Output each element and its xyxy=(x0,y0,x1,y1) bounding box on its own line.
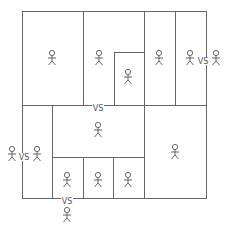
cell-bottom-center-cell-1 xyxy=(53,158,84,199)
svg-text:VS: VS xyxy=(19,153,30,162)
person-icon xyxy=(155,50,163,65)
person-icon xyxy=(48,50,56,65)
vs-left-label: VS xyxy=(18,153,30,162)
person-icon xyxy=(63,207,71,222)
cell-top-middle-inner xyxy=(115,53,145,106)
person-icon xyxy=(33,146,41,161)
person-icon xyxy=(8,146,16,161)
vs-bottom-label: VS xyxy=(61,197,73,206)
person-icon xyxy=(94,122,102,137)
cell-top-right-a xyxy=(145,12,176,106)
cell-bottom-center-cell-3 xyxy=(114,158,145,199)
person-icon xyxy=(186,50,194,65)
person-icon xyxy=(124,69,132,84)
diagram-canvas: VSVSVSVS xyxy=(0,0,226,229)
person-icon xyxy=(63,172,71,187)
person-icon xyxy=(212,50,220,65)
person-icon xyxy=(95,50,103,65)
svg-text:VS: VS xyxy=(62,197,73,206)
vs-right-label: VS xyxy=(197,57,209,66)
vs-middle-label: VS xyxy=(92,104,104,113)
person-icon xyxy=(171,144,179,159)
svg-text:VS: VS xyxy=(198,57,209,66)
svg-text:VS: VS xyxy=(93,104,104,113)
cell-bottom-center-top xyxy=(53,106,145,158)
person-icon xyxy=(124,172,132,187)
cell-top-left xyxy=(23,12,84,106)
person-icon xyxy=(94,172,102,187)
cell-grid xyxy=(23,12,207,199)
